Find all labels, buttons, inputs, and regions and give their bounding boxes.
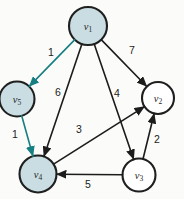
edge-v3-v2: 2 bbox=[143, 114, 160, 160]
edge-v4-v2-line bbox=[54, 107, 145, 165]
edge-v3-v4-line bbox=[57, 174, 123, 175]
edge-v5-v4-weight: 1 bbox=[12, 128, 18, 140]
edge-v3-v2-weight: 2 bbox=[154, 133, 160, 145]
node-v3: v3 bbox=[123, 159, 156, 192]
edge-v1-v3-line bbox=[94, 44, 134, 159]
edge-v1-v4: 6 bbox=[44, 44, 82, 157]
edge-v5-v4: 1 bbox=[12, 116, 33, 156]
graph-figure: v1 v5 v2 v4 v3 1 1 6 bbox=[0, 0, 184, 199]
edge-v1-v4-weight: 6 bbox=[55, 86, 61, 98]
edge-v1-v5: 1 bbox=[29, 40, 75, 87]
edge-v5-v4-line bbox=[22, 116, 33, 156]
edge-v4-v2: 3 bbox=[54, 107, 145, 165]
edge-v3-v4: 5 bbox=[57, 174, 123, 189]
edge-v1-v2-weight: 7 bbox=[129, 44, 135, 56]
graph-diagram: v1 v5 v2 v4 v3 1 1 6 bbox=[0, 0, 184, 199]
node-v4: v4 bbox=[20, 156, 57, 193]
edge-v1-v5-weight: 1 bbox=[48, 46, 54, 58]
edge-v1-v3: 4 bbox=[94, 44, 134, 159]
edge-v3-v4-weight: 5 bbox=[85, 178, 91, 190]
edge-v1-v3-weight: 4 bbox=[114, 87, 120, 99]
edge-v1-v4-line bbox=[44, 44, 82, 157]
edge-v4-v2-weight: 3 bbox=[76, 123, 82, 135]
edge-v1-v2-line bbox=[101, 40, 147, 87]
edge-v1-v2: 7 bbox=[101, 40, 147, 87]
edge-v3-v2-line bbox=[143, 114, 154, 160]
